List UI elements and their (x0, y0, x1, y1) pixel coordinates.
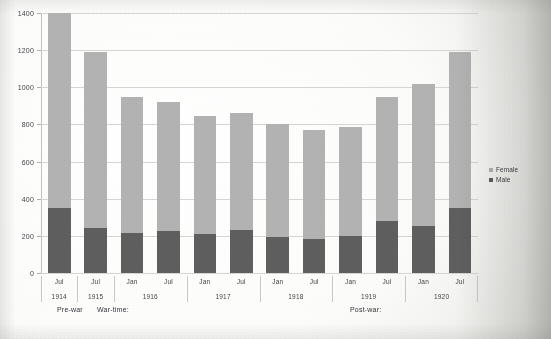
x-axis-year-label: 1915 (77, 289, 113, 307)
bar-segment-female[interactable] (157, 102, 180, 231)
bar-segment-male[interactable] (48, 208, 71, 273)
bar-slot (405, 13, 441, 273)
period-annotation: Pre-war (57, 306, 83, 313)
stacked-bar[interactable] (84, 13, 107, 273)
bar-slot (187, 13, 223, 273)
stacked-bar[interactable] (339, 13, 362, 273)
y-tick-label: 800 (22, 121, 34, 128)
x-axis-year-label: 1918 (260, 289, 333, 307)
x-axis-year-label: 1917 (187, 289, 260, 307)
x-axis-month-label: Jul (369, 278, 405, 285)
bar-segment-male[interactable] (303, 239, 326, 273)
bar-slot (114, 13, 150, 273)
stacked-bar[interactable] (449, 13, 472, 273)
bar-segment-female[interactable] (84, 52, 107, 228)
stacked-bar[interactable] (230, 13, 253, 273)
chart-legend: FemaleMale (489, 166, 518, 183)
y-tick-label: 1400 (18, 10, 34, 17)
x-axis-month-label: Jan (405, 278, 441, 285)
legend-label: Male (496, 176, 511, 183)
x-axis-month-label: Jul (77, 278, 113, 285)
bar-slot (296, 13, 332, 273)
chart-page: 0200400600800100012001400 JulJulJanJulJa… (0, 0, 551, 339)
bar-slot (369, 13, 405, 273)
stacked-bar[interactable] (376, 13, 399, 273)
bar-segment-male[interactable] (376, 221, 399, 273)
bar-segment-female[interactable] (194, 116, 217, 234)
bar-segment-male[interactable] (449, 208, 472, 273)
bar-segment-female[interactable] (412, 84, 435, 226)
stacked-bar[interactable] (303, 13, 326, 273)
x-axis-year-label: 1919 (332, 289, 405, 307)
x-axis-month-label: Jan (332, 278, 368, 285)
x-axis-month-label: Jul (150, 278, 186, 285)
stacked-bar[interactable] (266, 13, 289, 273)
x-axis-month-label: Jan (187, 278, 223, 285)
x-axis-month-label: Jul (41, 278, 77, 285)
legend-item[interactable]: Female (489, 166, 518, 173)
x-axis-month-label: Jul (296, 278, 332, 285)
bar-slot (41, 13, 77, 273)
y-tick-label: 1000 (18, 84, 34, 91)
stacked-bar[interactable] (194, 13, 217, 273)
y-tick-label: 0 (30, 270, 34, 277)
legend-label: Female (496, 166, 518, 173)
bar-segment-male[interactable] (157, 231, 180, 273)
y-tick-label: 200 (22, 232, 34, 239)
period-annotation: Post-war: (350, 306, 381, 313)
x-axis-month-label: Jan (260, 278, 296, 285)
bar-segment-female[interactable] (121, 97, 144, 234)
bar-segment-male[interactable] (194, 234, 217, 273)
bar-segment-male[interactable] (412, 226, 435, 273)
stacked-bar[interactable] (412, 13, 435, 273)
bar-segment-female[interactable] (449, 52, 472, 208)
legend-swatch-icon (489, 178, 493, 182)
y-tick-label: 400 (22, 195, 34, 202)
legend-swatch-icon (489, 168, 493, 172)
bar-segment-female[interactable] (230, 113, 253, 230)
bar-series-container (41, 13, 478, 273)
bar-segment-male[interactable] (266, 237, 289, 273)
bar-segment-male[interactable] (84, 228, 107, 274)
bar-slot (223, 13, 259, 273)
x-axis-month-label: Jan (114, 278, 150, 285)
y-tick-label: 600 (22, 158, 34, 165)
bar-segment-female[interactable] (303, 130, 326, 239)
x-axis-month-label: Jul (442, 278, 478, 285)
plot-area: 0200400600800100012001400 (41, 13, 478, 273)
bar-segment-female[interactable] (48, 13, 71, 208)
period-annotation: War-time: (97, 306, 129, 313)
x-axis-year-label: 1916 (114, 289, 187, 307)
bar-slot (332, 13, 368, 273)
x-axis-year-label: 1920 (405, 289, 478, 307)
x-axis-month-label: Jul (223, 278, 259, 285)
bar-segment-male[interactable] (230, 230, 253, 273)
bar-slot (150, 13, 186, 273)
bar-segment-male[interactable] (339, 236, 362, 273)
x-axis-year-label: 1914 (41, 289, 77, 307)
stacked-bar[interactable] (48, 13, 71, 273)
legend-item[interactable]: Male (489, 176, 518, 183)
bar-segment-female[interactable] (376, 97, 399, 221)
stacked-bar[interactable] (121, 13, 144, 273)
bar-slot (77, 13, 113, 273)
bar-slot (442, 13, 478, 273)
y-tick-label: 1200 (18, 47, 34, 54)
bar-segment-female[interactable] (266, 124, 289, 236)
bar-slot (260, 13, 296, 273)
bar-segment-male[interactable] (121, 233, 144, 273)
bar-segment-female[interactable] (339, 127, 362, 236)
x-axis-year-labels: 1914191519161917191819191920 (41, 289, 478, 307)
stacked-bar[interactable] (157, 13, 180, 273)
